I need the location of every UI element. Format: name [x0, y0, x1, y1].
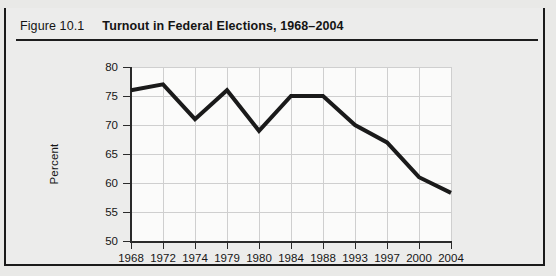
figure-number: Figure 10.1: [20, 19, 84, 33]
y-tick-mark: [123, 96, 130, 97]
y-tick-label: 50: [105, 235, 118, 247]
x-tick-mark: [387, 243, 388, 249]
y-tick-label: 75: [105, 90, 118, 102]
y-tick-mark: [123, 67, 130, 68]
x-tick-label: 1968: [118, 252, 144, 264]
x-tick-mark: [259, 243, 260, 249]
x-axis-ticks: 1968197219741979198019841988199319972000…: [131, 243, 461, 273]
x-tick-label: 1980: [246, 252, 272, 264]
title-divider: [16, 39, 538, 41]
turnout-line-series: [131, 67, 451, 241]
y-tick-mark: [123, 125, 130, 126]
y-tick-label: 55: [105, 206, 118, 218]
gridline-vertical: [451, 67, 452, 241]
x-tick-label: 1984: [278, 252, 304, 264]
x-tick-label: 1993: [342, 252, 368, 264]
x-tick-mark: [419, 243, 420, 249]
x-tick-label: 1974: [182, 252, 208, 264]
x-tick-mark: [227, 243, 228, 249]
x-tick-mark: [195, 243, 196, 249]
x-tick-label: 2004: [438, 252, 464, 264]
figure-box: Figure 10.1Turnout in Federal Elections,…: [4, 8, 545, 266]
x-tick-label: 2000: [406, 252, 432, 264]
y-tick-mark: [123, 212, 130, 213]
y-axis-ticks: 50556065707580: [6, 46, 130, 276]
x-tick-mark: [451, 243, 452, 249]
y-tick-label: 65: [105, 148, 118, 160]
x-tick-mark: [323, 243, 324, 249]
figure-title: Turnout in Federal Elections, 1968–2004: [102, 19, 343, 33]
y-tick-mark: [123, 154, 130, 155]
chart-plot: Percent 50556065707580 19681972197419791…: [6, 46, 556, 276]
x-tick-mark: [355, 243, 356, 249]
x-tick-mark: [131, 243, 132, 249]
y-tick-mark: [123, 241, 130, 242]
x-tick-label: 1997: [374, 252, 400, 264]
y-tick-label: 80: [105, 61, 118, 73]
y-tick-mark: [123, 183, 130, 184]
x-tick-label: 1979: [214, 252, 240, 264]
y-tick-label: 60: [105, 177, 118, 189]
x-tick-label: 1988: [310, 252, 336, 264]
y-tick-label: 70: [105, 119, 118, 131]
x-tick-mark: [163, 243, 164, 249]
x-tick-mark: [291, 243, 292, 249]
x-tick-label: 1972: [150, 252, 176, 264]
figure-caption: Figure 10.1Turnout in Federal Elections,…: [20, 16, 530, 38]
